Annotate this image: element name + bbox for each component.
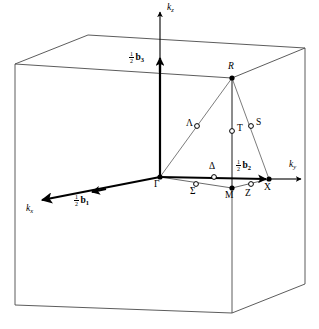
symmetry-point-markers [157, 75, 271, 190]
point-marker-S [249, 124, 254, 129]
point-label-R: R [228, 62, 234, 72]
symmetry-lines [160, 78, 269, 188]
fraction-one-half-b3: 1 2 [129, 51, 134, 65]
point-label-T: T [237, 124, 243, 134]
fraction-one-half-b1: 1 2 [74, 194, 79, 208]
point-marker-R [229, 75, 234, 80]
fraction-one-half-b2: 1 2 [236, 159, 241, 173]
point-label-Z: Z [245, 189, 251, 199]
label-half-b1: 1 2 b1 [74, 194, 89, 208]
brillouin-zone-figure: kx ky kz 1 2 b1 1 2 b2 1 2 b3 Γ R M X Λ … [0, 0, 319, 329]
cube-edge-top-left-diag [15, 35, 88, 64]
cube-edge-front-top [15, 64, 232, 78]
axis-label-ky: ky [289, 159, 296, 169]
point-label-X: X [264, 183, 271, 193]
axis-label-kx: kx [26, 203, 33, 213]
label-half-b2: 1 2 b2 [236, 159, 251, 173]
point-marker-Z [249, 182, 254, 187]
point-label-M: M [225, 191, 233, 201]
point-label-delta: Δ [209, 162, 215, 172]
point-marker-delta [212, 175, 217, 180]
point-marker-T [230, 129, 235, 134]
cube-edge-bottom-right-diag [232, 284, 305, 313]
cube-edge-top-right-diag [232, 48, 305, 78]
point-label-gamma: Γ [154, 180, 160, 190]
bold-b3: b3 [136, 53, 145, 63]
axis-kx-thick [42, 177, 160, 200]
bold-b1: b1 [81, 196, 90, 206]
point-label-lambda: Λ [186, 119, 193, 129]
point-marker-X [266, 176, 271, 181]
axis-label-kz: kz [167, 2, 174, 12]
cube-edge-front-bottom [15, 305, 232, 313]
point-marker-lambda [195, 124, 200, 129]
label-half-b3: 1 2 b3 [129, 51, 144, 65]
point-label-S: S [256, 118, 261, 128]
point-label-sigma: Σ [190, 187, 196, 197]
brillouin-zone-svg [0, 0, 319, 329]
cube-edge-top-back [88, 35, 305, 48]
bold-b2: b2 [243, 161, 252, 171]
